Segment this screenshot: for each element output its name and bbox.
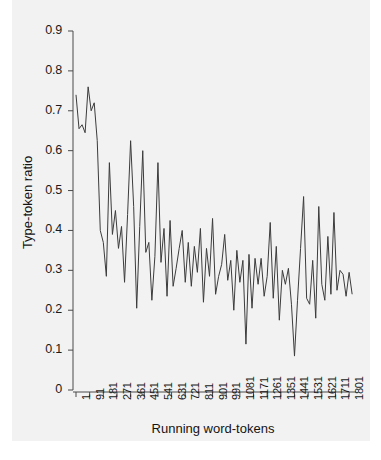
x-tick-label: 991 <box>230 382 242 400</box>
x-tick-label: 541 <box>162 382 174 400</box>
x-tick-label: 721 <box>189 382 201 400</box>
chart-figure: 00.10.20.30.40.50.60.70.80.9 19118127136… <box>0 0 381 460</box>
y-axis-ticks <box>68 31 73 390</box>
x-tick-label: 1711 <box>339 377 351 400</box>
x-tick-label: 811 <box>203 383 215 400</box>
type-token-ratio-series <box>76 87 352 356</box>
y-tick-label: 0 <box>28 382 62 396</box>
y-tick-label: 0.1 <box>28 342 62 356</box>
x-tick-label: 1441 <box>298 376 310 400</box>
x-tick-label: 361 <box>135 382 147 400</box>
x-tick-label: 451 <box>148 382 160 400</box>
y-tick-label: 0.9 <box>28 23 62 37</box>
x-axis-title: Running word-tokens <box>73 421 353 436</box>
x-tick-label: 1171 <box>258 377 270 400</box>
x-tick-label: 631 <box>176 382 188 400</box>
x-tick-label: 901 <box>217 382 229 400</box>
y-tick-label: 0.8 <box>28 63 62 77</box>
x-tick-label: 271 <box>121 382 133 400</box>
x-tick-label: 181 <box>107 382 119 400</box>
x-tick-label: 1261 <box>271 376 283 400</box>
y-axis-title: Type-token ratio <box>20 138 35 268</box>
x-tick-label: 1801 <box>353 376 365 400</box>
x-tick-label: 1081 <box>244 376 256 400</box>
x-tick-label: 1351 <box>285 376 297 400</box>
x-tick-label: 1531 <box>312 376 324 400</box>
x-tick-label: 91 <box>94 388 106 400</box>
y-tick-label: 0.7 <box>28 103 62 117</box>
x-tick-label: 1 <box>80 394 92 400</box>
y-tick-label: 0.2 <box>28 302 62 316</box>
x-tick-label: 1621 <box>326 376 338 400</box>
